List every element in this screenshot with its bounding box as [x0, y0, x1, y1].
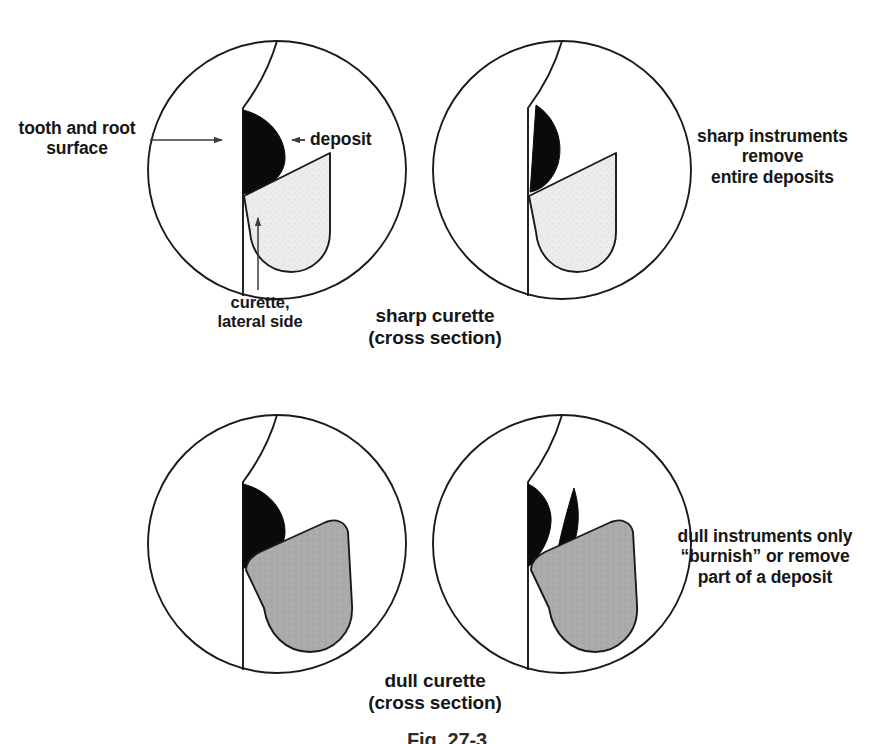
- note-dull-instruments: dull instruments only “burnish” or remov…: [640, 526, 890, 587]
- caption-sharp-curette: sharp curette (cross section): [300, 305, 570, 349]
- panel-sharp-after: [433, 41, 691, 299]
- panel-sharp-before: [148, 41, 406, 299]
- figure-illustration: [0, 0, 895, 744]
- caption-dull-curette: dull curette (cross section): [300, 670, 570, 714]
- label-deposit: deposit: [310, 129, 430, 149]
- dental-curette-figure: tooth and root surface deposit curette, …: [0, 0, 895, 744]
- label-tooth-and-root-surface: tooth and root surface: [6, 118, 148, 159]
- panel-dull-before: [148, 415, 406, 673]
- figure-number: Fig. 27-3: [347, 729, 547, 744]
- note-sharp-instruments: sharp instruments remove entire deposits: [655, 126, 890, 187]
